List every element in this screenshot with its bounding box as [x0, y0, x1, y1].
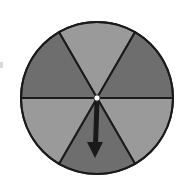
spinner-pivot — [94, 95, 100, 101]
spinner[interactable] — [0, 0, 185, 192]
